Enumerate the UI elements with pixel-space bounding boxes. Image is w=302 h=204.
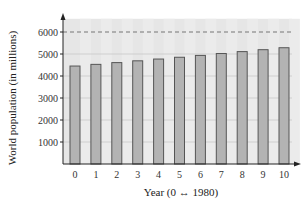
x-axis-ticks: 012345678910 bbox=[73, 169, 290, 180]
bar-0 bbox=[70, 66, 80, 164]
x-tick-label: 7 bbox=[219, 169, 224, 180]
x-tick-label: 10 bbox=[279, 169, 289, 180]
y-tick-label: 1000 bbox=[38, 137, 58, 148]
bar-1 bbox=[91, 64, 101, 164]
x-axis-title: Year (0 ↔ 1980) bbox=[144, 186, 219, 199]
bar-3 bbox=[133, 61, 143, 164]
x-tick-label: 8 bbox=[240, 169, 245, 180]
x-tick-label: 4 bbox=[156, 169, 161, 180]
y-tick-label: 2000 bbox=[38, 115, 58, 126]
y-axis-title: World population (in millions) bbox=[6, 30, 19, 165]
bar-chart: 100020003000400050006000 012345678910 Wo… bbox=[0, 0, 302, 204]
x-tick-label: 0 bbox=[73, 169, 78, 180]
bar-5 bbox=[175, 57, 185, 164]
x-tick-label: 1 bbox=[93, 169, 98, 180]
x-tick-label: 3 bbox=[135, 169, 140, 180]
bar-10 bbox=[279, 48, 289, 164]
y-tick-label: 4000 bbox=[38, 71, 58, 82]
x-tick-label: 6 bbox=[198, 169, 203, 180]
bar-2 bbox=[112, 63, 122, 164]
y-tick-label: 5000 bbox=[38, 49, 58, 60]
bar-8 bbox=[237, 52, 247, 164]
bar-7 bbox=[216, 54, 226, 164]
bar-6 bbox=[195, 55, 205, 164]
x-tick-label: 9 bbox=[261, 169, 266, 180]
x-tick-label: 5 bbox=[177, 169, 182, 180]
y-axis-arrow-icon bbox=[61, 13, 66, 20]
bar-9 bbox=[258, 50, 268, 164]
y-axis-ticks: 100020003000400050006000 bbox=[38, 27, 63, 148]
y-tick-label: 6000 bbox=[38, 27, 58, 38]
y-tick-label: 3000 bbox=[38, 93, 58, 104]
bar-4 bbox=[154, 59, 164, 164]
x-tick-label: 2 bbox=[114, 169, 119, 180]
